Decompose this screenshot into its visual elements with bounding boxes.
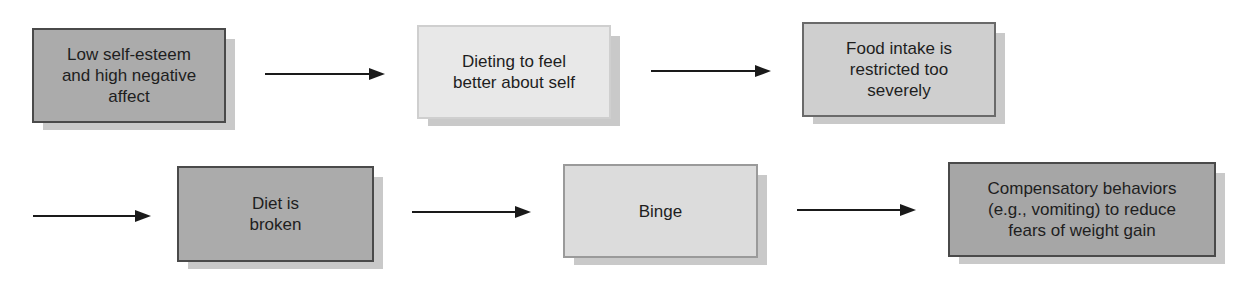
node-dieting: Dieting to feel better about self [417, 25, 611, 119]
arrow-right-icon [33, 210, 151, 222]
node-low-self-esteem: Low self-esteem and high negative affect [32, 28, 226, 123]
arrow-right-icon [651, 65, 771, 77]
arrow-right-icon [797, 204, 916, 216]
arrow-right-icon [412, 206, 531, 218]
node-label: Diet is broken [250, 193, 302, 235]
node-label: Binge [639, 201, 682, 222]
arrow-right-icon [265, 68, 385, 80]
node-binge: Binge [563, 164, 758, 258]
node-label: Dieting to feel better about self [453, 51, 575, 93]
flowchart: Low self-esteem and high negative affect… [0, 0, 1236, 285]
node-label: Low self-esteem and high negative affect [62, 44, 196, 107]
node-label: Food intake is restricted too severely [846, 38, 952, 101]
node-compensatory-behaviors: Compensatory behaviors (e.g., vomiting) … [948, 162, 1216, 257]
node-label: Compensatory behaviors (e.g., vomiting) … [988, 178, 1177, 241]
node-food-restricted: Food intake is restricted too severely [802, 22, 996, 117]
node-diet-broken: Diet is broken [177, 166, 374, 262]
